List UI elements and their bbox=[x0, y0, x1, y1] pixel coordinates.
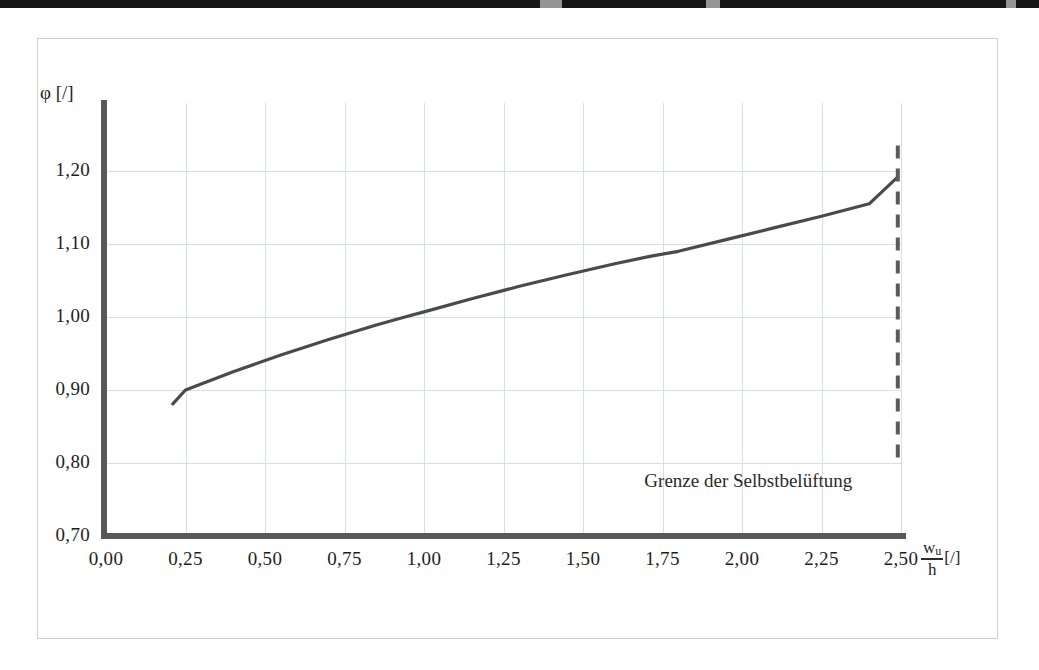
gridline-vertical bbox=[583, 103, 584, 536]
y-tick-label: 0,70 bbox=[30, 524, 90, 546]
scan-artifact-bar bbox=[0, 0, 1039, 8]
x-tick-label: 0,25 bbox=[146, 548, 226, 570]
gridline-vertical bbox=[345, 103, 346, 536]
fraction-numerator: wu bbox=[921, 539, 943, 558]
gridline-vertical bbox=[265, 103, 266, 536]
y-tick-label: 1,00 bbox=[30, 305, 90, 327]
x-axis-fraction: wu h bbox=[921, 539, 943, 578]
x-tick-label: 1,75 bbox=[623, 548, 703, 570]
fraction-denominator: h bbox=[926, 560, 939, 578]
x-axis-title: wu h [/] bbox=[921, 539, 960, 578]
x-tick-label: 0,50 bbox=[225, 548, 305, 570]
x-axis-line bbox=[101, 533, 906, 539]
gridline-vertical bbox=[504, 103, 505, 536]
gridline-vertical bbox=[424, 103, 425, 536]
gridline-horizontal bbox=[106, 463, 901, 464]
fraction-numerator-text: w bbox=[923, 538, 935, 557]
x-tick-label: 1,50 bbox=[543, 548, 623, 570]
gridline-vertical bbox=[901, 103, 902, 536]
x-tick-label: 1,00 bbox=[384, 548, 464, 570]
x-tick-label: 2,00 bbox=[702, 548, 782, 570]
y-tick-label: 1,10 bbox=[30, 232, 90, 254]
self-aeration-limit-label: Grenze der Selbstbelüftung bbox=[644, 470, 852, 492]
y-axis-line bbox=[101, 100, 107, 539]
fraction-numerator-subscript: u bbox=[935, 544, 941, 558]
x-tick-label: 0,00 bbox=[66, 548, 146, 570]
y-tick-label: 0,90 bbox=[30, 378, 90, 400]
x-axis-unit: [/] bbox=[944, 548, 960, 568]
gridline-horizontal bbox=[106, 171, 901, 172]
gridline-vertical bbox=[186, 103, 187, 536]
gridline-horizontal bbox=[106, 390, 901, 391]
figure-page: φ [/] 0,700,800,901,001,101,20 0,000,250… bbox=[0, 0, 1039, 670]
gridline-horizontal bbox=[106, 317, 901, 318]
y-tick-label: 0,80 bbox=[30, 451, 90, 473]
x-tick-label: 2,25 bbox=[782, 548, 862, 570]
gridline-horizontal bbox=[106, 244, 901, 245]
y-tick-label: 1,20 bbox=[30, 159, 90, 181]
x-tick-label: 0,75 bbox=[305, 548, 385, 570]
x-tick-label: 1,25 bbox=[464, 548, 544, 570]
